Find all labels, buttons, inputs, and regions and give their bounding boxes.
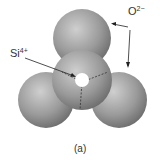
silicon-ion bbox=[75, 73, 89, 87]
o-arrowhead-1 bbox=[111, 22, 116, 26]
silicon-symbol: Si bbox=[10, 47, 20, 59]
o-arrow-2 bbox=[128, 30, 130, 66]
oxygen-label: O2− bbox=[128, 6, 145, 17]
silicon-label: Si4+ bbox=[10, 48, 28, 59]
silicon-charge: 4+ bbox=[20, 47, 28, 54]
silicate-tetrahedron-diagram bbox=[0, 0, 160, 162]
oxygen-charge: 2− bbox=[137, 5, 145, 12]
oxygen-symbol: O bbox=[128, 5, 137, 17]
figure-caption: (a) bbox=[74, 143, 86, 154]
o-arrowhead-2 bbox=[126, 62, 130, 68]
